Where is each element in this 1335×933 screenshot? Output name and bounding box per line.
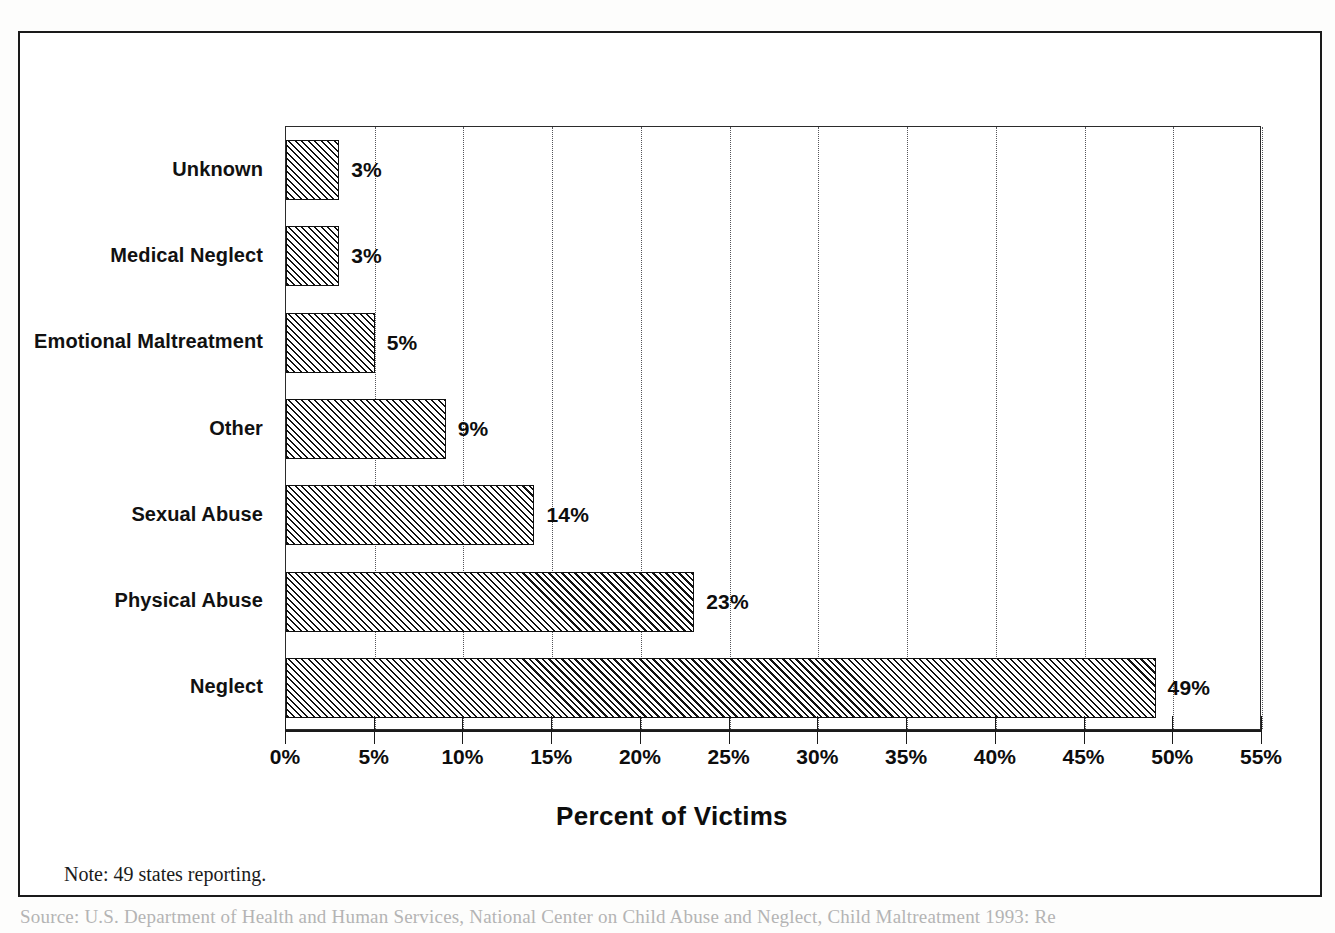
- bar[interactable]: [286, 313, 375, 373]
- x-tick-label: 40%: [955, 745, 1035, 769]
- x-tick-label: 25%: [689, 745, 769, 769]
- scanned-page: 49%23%14%9%5%3%3% 0%5%10%15%20%25%30%35%…: [0, 0, 1335, 933]
- x-tick: [729, 716, 730, 744]
- bar-value-label: 5%: [387, 331, 418, 355]
- gridline: [1262, 127, 1263, 729]
- bar-row: 14%: [286, 485, 1262, 545]
- x-tick: [1084, 716, 1085, 744]
- x-tick-label: 35%: [866, 745, 946, 769]
- bar-value-label: 3%: [351, 158, 382, 182]
- source-citation: Source: U.S. Department of Health and Hu…: [20, 906, 1330, 932]
- bar[interactable]: [286, 658, 1156, 718]
- x-axis-line: [285, 730, 1261, 732]
- category-label: Medical Neglect: [13, 243, 263, 268]
- bar-row: 49%: [286, 658, 1262, 718]
- figure-frame: 49%23%14%9%5%3%3% 0%5%10%15%20%25%30%35%…: [18, 31, 1322, 897]
- x-tick: [551, 716, 552, 744]
- bar-value-label: 49%: [1168, 676, 1211, 700]
- x-tick: [640, 716, 641, 744]
- x-tick-label: 50%: [1132, 745, 1212, 769]
- chart-note: Note: 49 states reporting.: [64, 863, 266, 886]
- x-tick-label: 45%: [1044, 745, 1124, 769]
- x-tick-label: 30%: [777, 745, 857, 769]
- bar[interactable]: [286, 140, 339, 200]
- category-label: Unknown: [13, 157, 263, 182]
- x-tick-label: 55%: [1221, 745, 1301, 769]
- bar-row: 9%: [286, 399, 1262, 459]
- x-tick: [374, 716, 375, 744]
- bar[interactable]: [286, 485, 534, 545]
- x-tick: [1172, 716, 1173, 744]
- x-tick: [462, 716, 463, 744]
- bar-row: 23%: [286, 572, 1262, 632]
- bar-value-label: 3%: [351, 244, 382, 268]
- category-label: Sexual Abuse: [13, 502, 263, 527]
- x-axis-title: Percent of Victims: [20, 801, 1324, 832]
- bar[interactable]: [286, 399, 446, 459]
- plot-area: 49%23%14%9%5%3%3%: [285, 126, 1261, 730]
- x-tick: [1261, 716, 1262, 744]
- x-tick: [906, 716, 907, 744]
- bar-value-label: 14%: [546, 503, 589, 527]
- x-tick: [285, 716, 286, 744]
- category-label: Emotional Maltreatment: [13, 329, 263, 354]
- category-label: Neglect: [13, 674, 263, 699]
- x-tick-label: 10%: [422, 745, 502, 769]
- category-label: Physical Abuse: [13, 588, 263, 613]
- bar[interactable]: [286, 226, 339, 286]
- x-tick: [817, 716, 818, 744]
- category-label: Other: [13, 416, 263, 441]
- x-tick: [995, 716, 996, 744]
- x-tick-label: 15%: [511, 745, 591, 769]
- bar-row: 3%: [286, 226, 1262, 286]
- x-tick-label: 5%: [334, 745, 414, 769]
- bar-row: 3%: [286, 140, 1262, 200]
- x-tick-label: 20%: [600, 745, 680, 769]
- bar-value-label: 9%: [458, 417, 489, 441]
- bar-row: 5%: [286, 313, 1262, 373]
- bar[interactable]: [286, 572, 694, 632]
- bar-value-label: 23%: [706, 590, 749, 614]
- x-tick-label: 0%: [245, 745, 325, 769]
